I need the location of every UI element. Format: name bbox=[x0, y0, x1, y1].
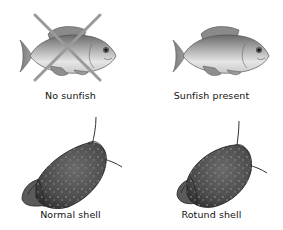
caption-rotund-shell: Rotund shell bbox=[141, 209, 282, 220]
panel-sunfish-present: Sunfish present bbox=[141, 0, 282, 115]
caption-sunfish-present: Sunfish present bbox=[141, 90, 282, 101]
caption-normal-shell: Normal shell bbox=[0, 209, 141, 220]
panel-normal-shell: Normal shell bbox=[0, 115, 141, 230]
panel-no-sunfish: No sunfish bbox=[0, 0, 141, 115]
caption-no-sunfish: No sunfish bbox=[0, 90, 141, 101]
panel-rotund-shell: Rotund shell bbox=[141, 115, 282, 230]
